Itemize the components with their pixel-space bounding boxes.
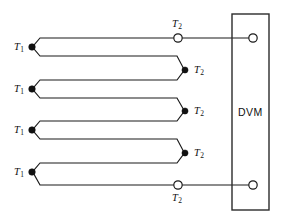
label-t2-3-sub: 2 xyxy=(200,109,204,118)
label-t2-top: T2 xyxy=(172,19,182,30)
dvm-terminal-bottom xyxy=(249,181,257,189)
wire-t1-2-upper xyxy=(34,71,185,88)
label-t1-1-sub: 1 xyxy=(20,45,24,54)
label-t1-2-sub: 1 xyxy=(20,87,24,96)
label-t2-top-sub: 2 xyxy=(178,22,182,31)
label-t2-4: T2 xyxy=(194,148,204,159)
label-t1-2: T1 xyxy=(14,84,24,95)
label-t1-4-letter: T xyxy=(14,166,20,177)
dvm-terminal-top xyxy=(249,34,257,42)
label-t2-bottom-letter: T xyxy=(172,192,178,203)
label-t2-3-letter: T xyxy=(194,105,200,116)
wire-t1-1-upper xyxy=(34,38,174,46)
measuring-junction-t1-1 xyxy=(29,44,36,51)
reference-junction-t2-top xyxy=(174,34,182,42)
reference-junction-t2-bottom xyxy=(174,181,182,189)
measuring-junction-t1-4 xyxy=(29,169,36,176)
wire-t1-1-lower xyxy=(34,48,185,69)
label-t2-3: T2 xyxy=(194,106,204,117)
dvm-label: DVM xyxy=(238,107,263,118)
label-t2-2-letter: T xyxy=(194,64,200,75)
label-t1-4-sub: 1 xyxy=(20,170,24,179)
label-t1-3: T1 xyxy=(14,125,24,136)
label-t2-2-sub: 2 xyxy=(200,68,204,77)
label-t2-4-sub: 2 xyxy=(200,151,204,160)
label-t2-4-letter: T xyxy=(194,147,200,158)
wire-t1-4-upper xyxy=(34,154,185,171)
label-t2-top-letter: T xyxy=(172,18,178,29)
reference-junction-t2-4 xyxy=(182,150,188,156)
wire-t1-3-upper xyxy=(34,112,185,129)
thermocouple-series-diagram: T1 T1 T1 T1 T2 T2 T2 T2 T2 DVM xyxy=(0,0,288,222)
label-t2-2: T2 xyxy=(194,65,204,76)
wire-t1-4-lower xyxy=(34,173,174,185)
label-t1-1-letter: T xyxy=(14,41,20,52)
label-t1-3-letter: T xyxy=(14,124,20,135)
label-t2-bottom: T2 xyxy=(172,193,182,204)
label-t1-3-sub: 1 xyxy=(20,128,24,137)
label-t2-bottom-sub: 2 xyxy=(178,196,182,205)
reference-junction-t2-3 xyxy=(182,108,188,114)
label-t1-2-letter: T xyxy=(14,83,20,94)
wire-t1-2-lower xyxy=(34,90,185,110)
reference-junction-t2-2 xyxy=(182,67,188,73)
measuring-junction-t1-3 xyxy=(29,127,36,134)
wire-t1-3-lower xyxy=(34,131,185,152)
label-t1-4: T1 xyxy=(14,167,24,178)
label-t1-1: T1 xyxy=(14,42,24,53)
measuring-junction-t1-2 xyxy=(29,86,36,93)
